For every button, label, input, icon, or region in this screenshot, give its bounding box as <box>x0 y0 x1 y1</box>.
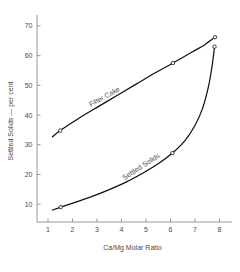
chart-container: 10203040506070 12345678 Filter CakeSettl… <box>0 0 240 272</box>
data-point-marker <box>171 61 174 64</box>
y-axis-title: Settled Solids — per cent <box>7 81 15 160</box>
x-tick-label: 1 <box>46 226 50 233</box>
y-tick-label: 20 <box>25 171 33 178</box>
series-curve <box>52 37 215 137</box>
series-curve <box>52 47 214 210</box>
chart-plot-area: 10203040506070 12345678 Filter CakeSettl… <box>0 0 240 272</box>
data-point-marker <box>59 205 62 208</box>
y-tick-label: 50 <box>25 82 33 89</box>
x-axis-title: Ca/Mg Molar Ratio <box>103 244 161 252</box>
x-tick-label: 3 <box>95 226 99 233</box>
x-tick-label: 7 <box>193 226 197 233</box>
x-tick-label: 8 <box>217 226 221 233</box>
y-tick-label: 30 <box>25 141 33 148</box>
data-point-marker <box>171 151 174 154</box>
y-axis-tick-labels: 10203040506070 <box>25 22 33 207</box>
x-axis-tick-labels: 12345678 <box>46 226 221 233</box>
y-tick-label: 40 <box>25 112 33 119</box>
x-axis: 12345678 <box>37 219 232 233</box>
chart-series-group <box>52 37 215 210</box>
y-axis-ticks <box>37 26 41 204</box>
y-tick-label: 70 <box>25 22 33 29</box>
y-tick-label: 10 <box>25 201 33 208</box>
y-tick-label: 60 <box>25 52 33 59</box>
x-tick-label: 2 <box>71 226 75 233</box>
x-tick-label: 4 <box>120 226 124 233</box>
data-point-marker <box>213 36 216 39</box>
x-tick-label: 6 <box>169 226 173 233</box>
x-tick-label: 5 <box>144 226 148 233</box>
chart-series-labels: Filter CakeSettled Solids <box>88 85 161 181</box>
y-axis: 10203040506070 <box>25 15 41 222</box>
chart-data-markers <box>59 36 217 209</box>
data-point-marker <box>59 129 62 132</box>
x-axis-ticks <box>48 219 219 223</box>
data-point-marker <box>213 45 216 48</box>
